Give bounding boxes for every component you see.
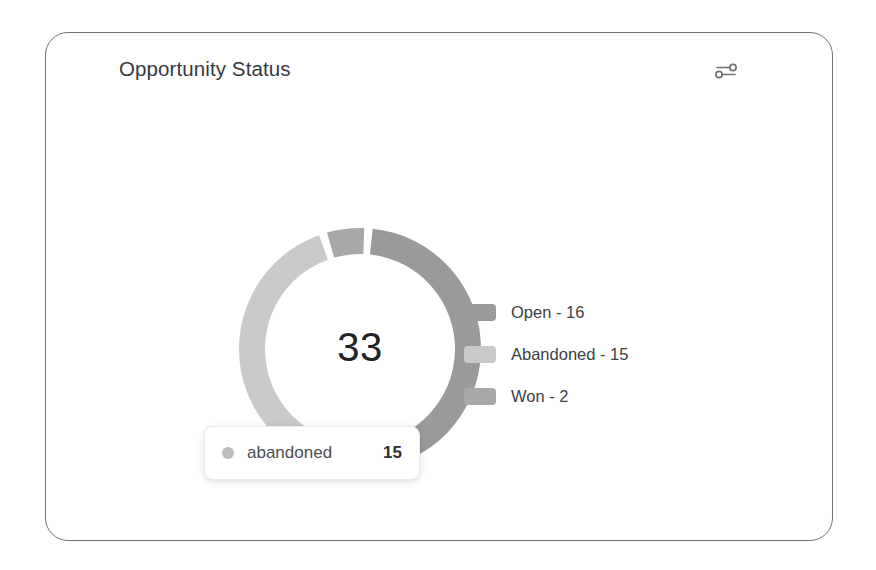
legend-item-open[interactable]: Open - 16 <box>464 303 628 322</box>
legend-item-won[interactable]: Won - 2 <box>464 387 628 406</box>
chart-legend: Open - 16 Abandoned - 15 Won - 2 <box>464 303 628 406</box>
chart-tooltip: abandoned 15 <box>204 426 420 480</box>
tooltip-series-dot <box>222 447 234 459</box>
legend-label-abandoned: Abandoned - 15 <box>511 345 628 364</box>
chart-area: 33 Open - 16 Abandoned - 15 Won - 2 aban… <box>46 33 832 540</box>
tooltip-series-value: 15 <box>383 443 402 463</box>
legend-swatch-abandoned <box>464 346 496 363</box>
legend-swatch-won <box>464 388 496 405</box>
opportunity-status-card: Opportunity Status <box>45 32 833 541</box>
donut-segment-won <box>327 228 364 258</box>
legend-label-open: Open - 16 <box>511 303 584 322</box>
legend-item-abandoned[interactable]: Abandoned - 15 <box>464 345 628 364</box>
legend-label-won: Won - 2 <box>511 387 568 406</box>
tooltip-series-name: abandoned <box>247 443 332 463</box>
legend-swatch-open <box>464 304 496 321</box>
